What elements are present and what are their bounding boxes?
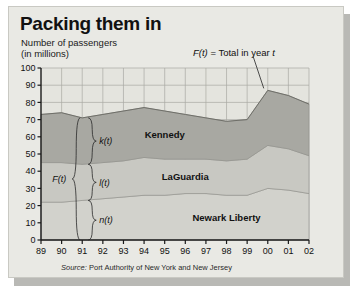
x-tick-label: 93 <box>118 246 128 256</box>
y-tick-label: 90 <box>25 80 35 90</box>
x-tick-label: 97 <box>201 246 211 256</box>
y-tick-label: 60 <box>25 132 35 142</box>
x-tick-label: 00 <box>263 246 273 256</box>
y-tick-label: 0 <box>30 235 35 245</box>
newark-brace-label: n(t) <box>99 215 113 225</box>
x-tick-label: 95 <box>160 246 170 256</box>
kennedy-brace-label: k(t) <box>99 136 112 146</box>
x-tick-label: 99 <box>242 246 252 256</box>
band-label-l: LaGuardia <box>162 171 210 182</box>
y-tick-label: 50 <box>25 149 35 159</box>
band-label-k: Kennedy <box>145 129 186 140</box>
x-tick-label: 89 <box>36 246 46 256</box>
y-tick-label: 30 <box>25 184 35 194</box>
x-tick-label: 02 <box>304 246 314 256</box>
x-tick-label: 91 <box>77 246 87 256</box>
laguardia-brace-label: l(t) <box>99 178 110 188</box>
total-brace-label: F(t) <box>52 174 66 184</box>
y-tick-label: 100 <box>20 63 35 73</box>
band-label-n: Newark Liberty <box>192 212 261 223</box>
x-tick-label: 90 <box>57 246 67 256</box>
screenshot-root: Packing them in Number of passengers (in… <box>0 0 356 292</box>
x-tick-label: 92 <box>98 246 108 256</box>
y-tick-label: 80 <box>25 98 35 108</box>
y-tick-label: 40 <box>25 166 35 176</box>
area-chart-svg: 0102030405060708090100899091929394959697… <box>0 0 356 292</box>
y-tick-label: 70 <box>25 115 35 125</box>
x-tick-label: 01 <box>283 246 293 256</box>
y-tick-label: 20 <box>25 201 35 211</box>
y-tick-label: 10 <box>25 218 35 228</box>
x-tick-label: 98 <box>222 246 232 256</box>
x-tick-label: 94 <box>139 246 149 256</box>
x-tick-label: 96 <box>180 246 190 256</box>
